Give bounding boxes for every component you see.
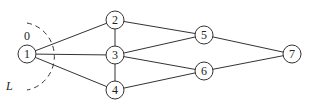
nodes: 1234567 [18, 11, 301, 99]
edge-1-2 [27, 20, 115, 54]
node-5: 5 [195, 26, 213, 44]
node-label: 5 [201, 28, 207, 42]
edge-4-6 [115, 71, 204, 90]
edge-1-3 [27, 54, 115, 55]
graph-diagram: 1234567 0 L [0, 0, 310, 105]
graph-canvas: 1234567 0 L [0, 0, 310, 105]
cut-label: L [5, 79, 13, 93]
edge-5-7 [204, 35, 292, 54]
node-label: 1 [24, 47, 30, 61]
node-7: 7 [283, 45, 301, 63]
zero-label: 0 [24, 29, 30, 43]
node-6: 6 [195, 62, 213, 80]
node-3: 3 [106, 46, 124, 64]
edges [27, 20, 292, 90]
node-2: 2 [106, 11, 124, 29]
edge-6-7 [204, 54, 292, 71]
edge-1-4 [27, 54, 115, 90]
node-label: 7 [289, 47, 295, 61]
edge-3-5 [115, 35, 204, 55]
edge-3-6 [115, 55, 204, 71]
node-label: 3 [112, 48, 118, 62]
edge-2-5 [115, 20, 204, 35]
node-4: 4 [106, 81, 124, 99]
node-label: 4 [112, 83, 118, 97]
node-label: 2 [112, 13, 118, 27]
node-1: 1 [18, 45, 36, 63]
node-label: 6 [201, 64, 207, 78]
